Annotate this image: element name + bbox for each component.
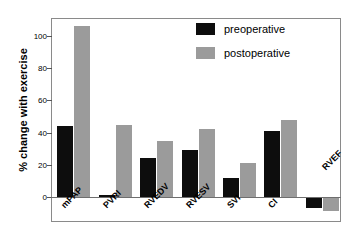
bar-postoperative-mPAP[interactable]: [74, 26, 90, 197]
y-tick-label: 60: [25, 96, 47, 105]
legend: preoperative postoperative: [196, 22, 290, 70]
y-tick-label: 0: [25, 193, 47, 202]
bar-postoperative-RVEF[interactable]: [323, 197, 339, 211]
bar-preoperative-RVEF[interactable]: [306, 197, 322, 208]
legend-label-postoperative: postoperative: [224, 47, 290, 59]
bar-postoperative-PVRI[interactable]: [116, 125, 132, 197]
y-tick-label: 20: [25, 160, 47, 169]
y-tick-label: 80: [25, 64, 47, 73]
bar-chart: % change with exercise 020406080100 mPAP…: [0, 0, 349, 249]
legend-item-preoperative[interactable]: preoperative: [196, 22, 290, 35]
legend-swatch-postoperative: [196, 47, 215, 59]
bar-postoperative-SVI[interactable]: [240, 163, 256, 197]
legend-swatch-preoperative: [196, 23, 215, 35]
legend-label-preoperative: preoperative: [224, 23, 285, 35]
bar-group: [306, 18, 339, 222]
y-tick-label: 100: [25, 32, 47, 41]
bar-preoperative-CI[interactable]: [264, 131, 280, 197]
bar-preoperative-mPAP[interactable]: [57, 126, 73, 197]
legend-item-postoperative[interactable]: postoperative: [196, 46, 290, 59]
y-tick-label: 40: [25, 128, 47, 137]
y-axis-title: % change with exercise: [17, 25, 29, 195]
bar-postoperative-CI[interactable]: [281, 120, 297, 197]
